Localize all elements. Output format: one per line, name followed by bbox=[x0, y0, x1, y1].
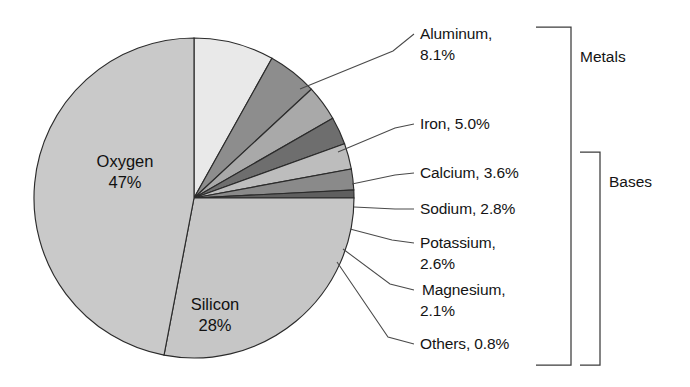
leader-line-iron bbox=[338, 124, 414, 152]
oxygen-label-name: Oxygen bbox=[97, 152, 154, 170]
oxygen-label-value: 47% bbox=[108, 173, 141, 191]
bracket-bases bbox=[580, 152, 600, 365]
leader-line-others bbox=[337, 262, 414, 344]
pie-slice-oxygen[interactable] bbox=[34, 38, 194, 355]
callout-labels: Aluminum, 8.1% Iron, 5.0% Calcium, 3.6% … bbox=[420, 25, 519, 352]
callout-magnesium-line2: 2.1% bbox=[420, 302, 455, 319]
leader-line-sodium bbox=[354, 207, 414, 209]
group-brackets: Metals Bases bbox=[536, 27, 652, 365]
callout-others-line1: Others, 0.8% bbox=[420, 335, 510, 352]
leader-line-aluminum bbox=[300, 34, 414, 89]
chart-canvas: Oxygen 47% Silicon 28% Aluminum, 8.1% Ir… bbox=[0, 0, 690, 387]
pie-slice-silicon[interactable] bbox=[164, 198, 354, 358]
callout-potassium-line1: Potassium, bbox=[420, 234, 496, 251]
callout-calcium-line1: Calcium, 3.6% bbox=[420, 164, 519, 181]
leader-line-magnesium bbox=[343, 249, 414, 290]
callout-sodium-line1: Sodium, 2.8% bbox=[420, 200, 516, 217]
callout-magnesium-line1: Magnesium, bbox=[422, 281, 505, 298]
callout-aluminum-line1: Aluminum, bbox=[420, 25, 492, 42]
leader-line-potassium bbox=[350, 229, 414, 243]
silicon-label-name: Silicon bbox=[191, 295, 240, 313]
bracket-metals bbox=[536, 27, 571, 365]
callout-iron-line1: Iron, 5.0% bbox=[420, 115, 490, 132]
pie-chart-figure: Oxygen 47% Silicon 28% Aluminum, 8.1% Ir… bbox=[0, 0, 690, 387]
silicon-label-value: 28% bbox=[198, 316, 231, 334]
callout-aluminum-line2: 8.1% bbox=[420, 46, 455, 63]
callout-potassium-line2: 2.6% bbox=[420, 255, 455, 272]
bracket-metals-label: Metals bbox=[580, 48, 626, 65]
bracket-bases-label: Bases bbox=[609, 173, 652, 190]
leader-line-calcium bbox=[352, 173, 414, 184]
